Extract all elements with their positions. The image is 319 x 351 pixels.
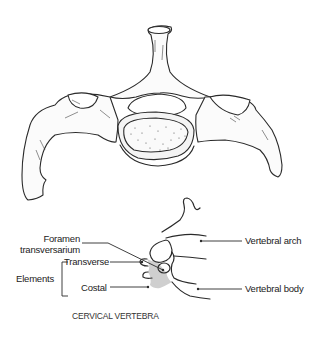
- label-elements: Elements: [16, 273, 54, 284]
- figure-caption: CERVICAL VERTEBRA: [72, 311, 159, 321]
- label-foramen-transversarium: Foramen transversarium: [18, 233, 80, 255]
- label-vertebral-arch: Vertebral arch: [245, 235, 301, 246]
- label-transverse: Transverse: [64, 256, 109, 267]
- elements-bracket: [62, 262, 68, 296]
- label-foramen-line2: transversarium: [18, 244, 80, 255]
- schematic-diagram: [0, 0, 319, 351]
- shaded-costal-region: [147, 259, 172, 288]
- label-costal: Costal: [81, 282, 107, 293]
- label-foramen-line1: Foramen: [18, 233, 80, 244]
- label-vertebral-body: Vertebral body: [245, 283, 303, 294]
